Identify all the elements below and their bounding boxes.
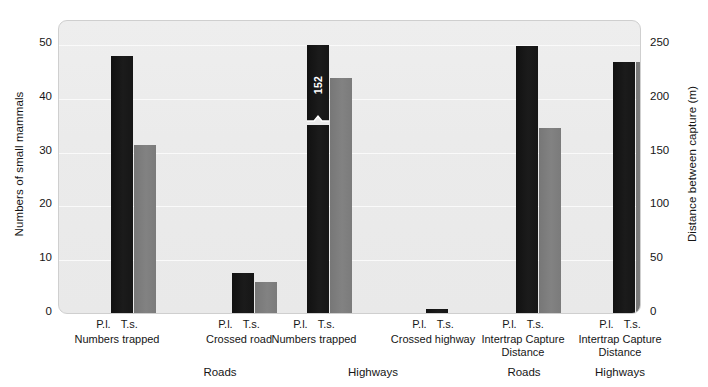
x-group-label-2: P.l. T.s. Numbers trapped (253, 318, 375, 346)
bar-pl-group-2: 152 (307, 45, 329, 314)
y-tick-left-20: 20 (26, 197, 52, 209)
series-label-ts-0: T.s. (121, 318, 138, 330)
y-tick-right-150: 150 (650, 144, 680, 156)
series-label-ts-4: T.s. (527, 318, 544, 330)
x-supergroup-itcd-roads: Roads (484, 366, 564, 378)
x-supergroup-itcd-highways: Highways (580, 366, 660, 378)
y-tick-right-200: 200 (650, 90, 680, 102)
bar-chart-figure: Numbers of small mammals Distance betwee… (0, 0, 708, 387)
bar-ts-group-3 (449, 313, 471, 314)
x-category-0: Numbers trapped (56, 333, 178, 346)
x-group-label-5: P.l. T.s. Intertrap Capture Distance (559, 318, 681, 358)
y-tick-right-100: 100 (650, 197, 680, 209)
y-axis-label-right: Distance between capture (m) (686, 69, 698, 259)
series-label-ts-2: T.s. (318, 318, 335, 330)
series-label-pl-3: P.l. (412, 318, 426, 330)
x-group-label-0: P.l. T.s. Numbers trapped (56, 318, 178, 346)
bar-value-annotation: 152 (312, 65, 324, 105)
bars-layer: 152 (59, 21, 640, 313)
plot-area: 152 (58, 20, 641, 314)
series-label-pl-2: P.l. (293, 318, 307, 330)
bar-ts-group-4 (539, 128, 561, 314)
axis-break-marker (307, 114, 329, 125)
x-category-2: Numbers trapped (253, 333, 375, 346)
y-tick-left-40: 40 (26, 90, 52, 102)
bar-ts-group-5 (636, 62, 641, 314)
y-tick-right-0: 0 (650, 305, 680, 317)
x-supergroup-roads: Roads (180, 366, 260, 378)
bar-pl-group-0 (111, 56, 133, 314)
y-axis-label-left: Numbers of small mammals (13, 69, 25, 259)
bar-ts-group-0 (134, 145, 156, 314)
x-category-5: Intertrap Capture Distance (559, 333, 681, 358)
series-label-pl-0: P.l. (96, 318, 110, 330)
series-label-pl-5: P.l. (599, 318, 613, 330)
bar-pl-group-4 (516, 46, 538, 314)
x-supergroup-highways: Highways (333, 366, 413, 378)
bar-pl-group-1 (232, 273, 254, 314)
bar-ts-group-1 (255, 282, 277, 314)
bar-ts-group-2 (330, 78, 352, 314)
y-tick-left-0: 0 (26, 305, 52, 317)
series-label-pl-4: P.l. (502, 318, 516, 330)
series-label-ts-3: T.s. (437, 318, 454, 330)
y-tick-right-250: 250 (650, 36, 680, 48)
bar-pl-group-3 (426, 309, 448, 314)
bar-pl-group-5 (613, 62, 635, 314)
y-tick-left-30: 30 (26, 144, 52, 156)
y-tick-left-10: 10 (26, 251, 52, 263)
y-tick-left-50: 50 (26, 36, 52, 48)
series-label-pl-1: P.l. (218, 318, 232, 330)
y-tick-right-50: 50 (650, 251, 680, 263)
series-label-ts-5: T.s. (624, 318, 641, 330)
